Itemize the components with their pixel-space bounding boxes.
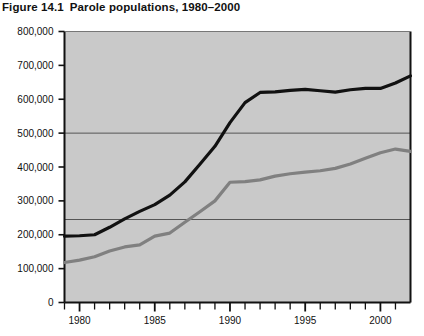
figure-container: Figure 14.1Parole populations, 1980–2000… [0, 0, 424, 336]
parole-populations-line-chart: 0100,000200,000300,000400,000500,000600,… [0, 0, 424, 336]
plot-background [65, 32, 411, 303]
x-axis-labels: 19801985199019952000 [68, 315, 392, 326]
y-tick-label-0: 0 [48, 297, 54, 308]
x-tick-label-1980: 1980 [68, 315, 91, 326]
y-tick-label-5: 500,000 [17, 128, 54, 139]
x-tick-label-1990: 1990 [219, 315, 242, 326]
x-tick-label-2000: 2000 [369, 315, 392, 326]
x-tick-label-1985: 1985 [144, 315, 167, 326]
y-tick-label-2: 200,000 [17, 229, 54, 240]
x-tick-label-1995: 1995 [294, 315, 317, 326]
y-tick-label-7: 700,000 [17, 60, 54, 71]
y-tick-label-6: 600,000 [17, 94, 54, 105]
y-tick-label-8: 800,000 [17, 26, 54, 37]
x-axis-ticks [65, 303, 396, 312]
plot-area-fill [65, 32, 411, 303]
y-tick-label-4: 400,000 [17, 162, 54, 173]
y-tick-label-3: 300,000 [17, 195, 54, 206]
y-tick-label-1: 100,000 [17, 263, 54, 274]
y-axis-labels: 0100,000200,000300,000400,000500,000600,… [17, 26, 54, 308]
